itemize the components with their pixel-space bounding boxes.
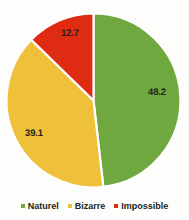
pie-slice-label-bizarre: 39.1 (25, 128, 43, 139)
legend-item-impossible[interactable]: Impossible (114, 201, 168, 211)
pie-chart-figure: 48.239.112.7 NaturelBizarreImpossible (0, 0, 189, 220)
legend-swatch-bizarre (68, 204, 72, 208)
pie-slice-naturel[interactable] (94, 14, 181, 187)
legend-item-naturel[interactable]: Naturel (21, 201, 59, 211)
chart-legend: NaturelBizarreImpossible (0, 197, 189, 215)
legend-label-bizarre: Bizarre (75, 201, 106, 211)
legend-label-naturel: Naturel (28, 201, 59, 211)
legend-swatch-impossible (114, 204, 118, 208)
legend-label-impossible: Impossible (121, 201, 168, 211)
pie-slice-label-naturel: 48.2 (148, 87, 166, 98)
pie-slice-label-impossible: 12.7 (61, 28, 79, 39)
pie-plot-area: 48.239.112.7 (0, 0, 189, 192)
legend-swatch-naturel (21, 204, 25, 208)
legend-item-bizarre[interactable]: Bizarre (68, 201, 106, 211)
